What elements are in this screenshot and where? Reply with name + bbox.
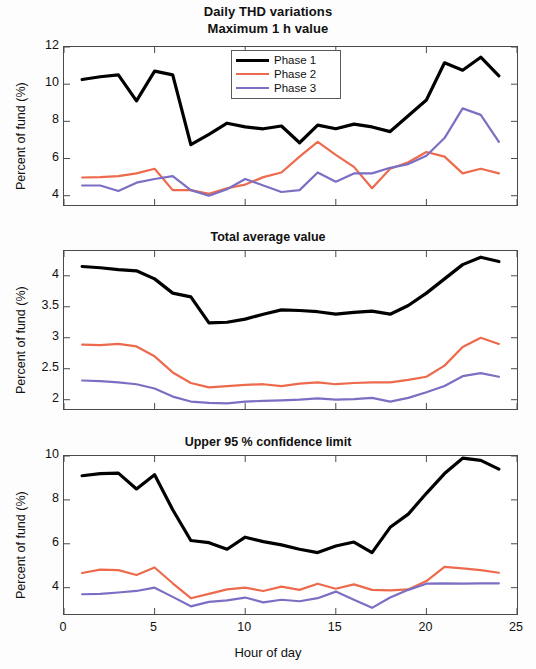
x-tick-label: 10 bbox=[224, 620, 264, 634]
series-lines-2 bbox=[64, 251, 517, 409]
figure-supertitle-line2: Maximum 1 h value bbox=[0, 21, 536, 36]
figure-supertitle-line1: Daily THD variations bbox=[0, 4, 536, 19]
x-tick-label: 25 bbox=[496, 620, 536, 634]
legend-label-phase-1: Phase 1 bbox=[274, 54, 316, 66]
legend-label-phase-3: Phase 3 bbox=[274, 82, 316, 94]
series-line-phase-3 bbox=[82, 108, 499, 195]
panel-title-2: Total average value bbox=[0, 230, 536, 244]
y-tick-label: 2 bbox=[19, 391, 59, 405]
y-tick-label: 8 bbox=[19, 112, 59, 126]
y-tick-label: 12 bbox=[19, 38, 59, 52]
figure-canvas: Daily THD variations Maximum 1 h value P… bbox=[0, 0, 536, 669]
y-tick-label: 2.5 bbox=[19, 360, 59, 374]
series-lines-3 bbox=[64, 456, 517, 614]
x-tick-label: 5 bbox=[134, 620, 174, 634]
y-tick-label: 4 bbox=[19, 187, 59, 201]
y-tick-label: 10 bbox=[19, 75, 59, 89]
legend-item-phase-3: Phase 3 bbox=[236, 81, 335, 95]
y-tick-label: 4 bbox=[19, 579, 59, 593]
y-tick-label: 8 bbox=[19, 491, 59, 505]
legend-swatch-phase-3 bbox=[236, 87, 269, 89]
y-tick-label: 3.5 bbox=[19, 298, 59, 312]
y-axis-label-1: Percent of fund (%) bbox=[14, 82, 28, 190]
panel-total-average-value: Total average value Percent of fund (%) … bbox=[0, 228, 536, 433]
y-tick-label: 6 bbox=[19, 535, 59, 549]
y-tick-label: 6 bbox=[19, 150, 59, 164]
legend-swatch-phase-1 bbox=[236, 59, 269, 62]
plot-area-2 bbox=[63, 250, 518, 410]
series-line-phase-3 bbox=[82, 583, 499, 608]
legend: Phase 1 Phase 2 Phase 3 bbox=[231, 50, 341, 99]
series-line-phase-2 bbox=[82, 142, 499, 194]
plot-area-3 bbox=[63, 455, 518, 615]
y-tick-label: 10 bbox=[19, 447, 59, 461]
legend-label-phase-2: Phase 2 bbox=[274, 68, 316, 80]
legend-item-phase-1: Phase 1 bbox=[236, 53, 335, 67]
y-tick-label: 4 bbox=[19, 267, 59, 281]
x-tick-label: 15 bbox=[315, 620, 355, 634]
legend-swatch-phase-2 bbox=[236, 73, 269, 75]
legend-item-phase-2: Phase 2 bbox=[236, 67, 335, 81]
y-tick-label: 3 bbox=[19, 329, 59, 343]
series-line-phase-1 bbox=[82, 257, 499, 323]
panel-upper-95-confidence-limit: Upper 95 % confidence limit Percent of f… bbox=[0, 433, 536, 669]
x-axis-label: Hour of day bbox=[0, 645, 536, 660]
x-tick-label: 20 bbox=[405, 620, 445, 634]
panel-maximum-1h-value: Percent of fund (%) 4681012 Phase 1 Phas… bbox=[0, 38, 536, 228]
series-line-phase-3 bbox=[82, 373, 499, 403]
series-line-phase-2 bbox=[82, 338, 499, 388]
panel-title-3: Upper 95 % confidence limit bbox=[0, 435, 536, 449]
x-tick-label: 0 bbox=[43, 620, 83, 634]
series-line-phase-1 bbox=[82, 458, 499, 552]
